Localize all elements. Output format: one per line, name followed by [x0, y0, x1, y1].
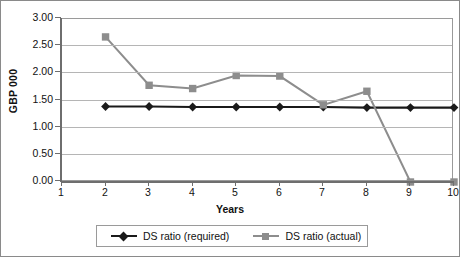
x-axis-title: Years [1, 203, 459, 215]
y-axis-tick-label: 0.50 [13, 148, 53, 159]
x-axis-tick-label: 9 [394, 187, 424, 198]
series-layer [62, 19, 454, 182]
y-axis-tick [55, 17, 61, 18]
data-point-marker-diamond [450, 103, 459, 112]
gridline [62, 100, 452, 101]
y-axis-tick-label: 1.50 [13, 94, 53, 105]
y-axis-tick-label: 0.00 [13, 175, 53, 186]
data-point-marker-diamond [362, 103, 371, 112]
data-point-marker-diamond [275, 103, 284, 112]
y-axis-tick [55, 44, 61, 45]
x-axis-tick-label: 8 [351, 187, 381, 198]
data-point-marker-square [189, 85, 196, 92]
x-axis-tick-label: 10 [438, 187, 462, 198]
y-axis-tick [55, 71, 61, 72]
data-point-marker-diamond [145, 102, 154, 111]
x-axis-tick-label: 1 [46, 187, 76, 198]
data-point-marker-square [102, 33, 109, 40]
y-axis-title: GBP 000 [7, 51, 19, 131]
gridline [62, 154, 452, 155]
chart-legend: DS ratio (required) DS ratio (actual) [96, 225, 368, 247]
gridline [62, 45, 452, 46]
y-axis-tick [55, 99, 61, 100]
gridline [62, 127, 452, 128]
data-point-marker-diamond [406, 103, 415, 112]
legend-marker-diamond-icon [111, 230, 137, 242]
y-axis-tick-label: 2.50 [13, 39, 53, 50]
y-axis-line [60, 18, 62, 182]
data-point-marker-square [363, 88, 370, 95]
y-axis-tick [55, 153, 61, 154]
y-axis-tick [55, 126, 61, 127]
gridline [62, 72, 452, 73]
data-point-marker-square [320, 101, 327, 108]
data-point-marker-diamond [188, 103, 197, 112]
data-point-marker-diamond [232, 103, 241, 112]
plot-area [61, 18, 453, 181]
y-axis-tick-label: 3.00 [13, 12, 53, 23]
legend-label-ds-ratio-actual: DS ratio (actual) [285, 230, 361, 242]
x-axis-tick-label: 5 [220, 187, 250, 198]
y-axis-tick-label: 2.00 [13, 66, 53, 77]
legend-marker-square-icon [253, 230, 279, 242]
x-axis-tick-label: 3 [133, 187, 163, 198]
x-axis-tick-label: 6 [264, 187, 294, 198]
x-axis-line [61, 181, 453, 183]
chart-figure: 0.000.501.001.502.002.503.00 GBP 000 Yea… [0, 0, 460, 257]
y-axis-tick-label: 1.00 [13, 121, 53, 132]
x-axis-tick-label: 2 [90, 187, 120, 198]
data-point-marker-square [145, 82, 152, 89]
legend-entry-ds-ratio-required: DS ratio (required) [111, 230, 229, 242]
data-point-marker-diamond [101, 102, 110, 111]
legend-label-ds-ratio-required: DS ratio (required) [143, 230, 229, 242]
x-axis-tick-label: 7 [307, 187, 337, 198]
data-point-marker-square [276, 72, 283, 79]
x-axis-tick-label: 4 [177, 187, 207, 198]
legend-entry-ds-ratio-actual: DS ratio (actual) [253, 230, 361, 242]
